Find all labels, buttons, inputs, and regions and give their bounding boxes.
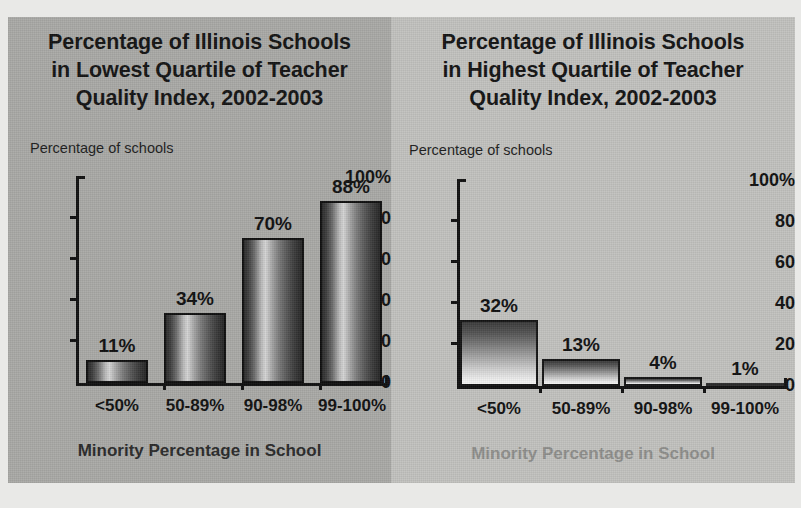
y-tick-20-right [451,342,458,345]
bar-lowest-99-100 [320,201,382,383]
bar-highest-50-89 [542,359,620,386]
chart-panel-lowest-quartile: Percentage of Illinois Schools in Lowest… [8,17,391,483]
y-tick-40-left [70,298,77,301]
y-tick-60-left [70,257,77,260]
chart-panel-highest-quartile: Percentage of Illinois Schools in Highes… [391,17,795,483]
bar-lowest-90-98 [242,238,304,383]
bar-value-lowest-99-100: 88% [320,176,382,198]
y-tick-label-100-right: 100% [735,170,795,191]
y-tick-80-left [70,216,77,219]
y-tick-label-60-right: 60 [735,252,795,273]
bar-lowest-50-89 [164,313,226,383]
y-tick-60-right [451,260,458,263]
x-cat-label-lowest-50-89: 50-89% [158,396,232,416]
y-tick-label-80-right: 80 [735,211,795,232]
bar-value-lowest-lt50: 11% [86,335,148,357]
chart-figure: Percentage of Illinois Schools in Lowest… [0,0,801,508]
bar-highest-90-98 [624,377,702,386]
bar-value-highest-90-98: 4% [624,352,702,374]
x-cat-label-highest-99-100: 99-100% [704,399,786,419]
plot-area-left: 100% 80 60 40 20 0 [8,17,391,483]
y-tick-label-20-right: 20 [735,334,795,355]
x-cat-label-lowest-lt50: <50% [80,396,154,416]
bar-highest-99-100 [706,383,784,386]
y-tick-20-left [70,339,77,342]
x-axis-line-left [76,383,388,386]
y-tick-40-right [451,301,458,304]
x-axis-end-cap-left [385,375,388,386]
bar-value-highest-lt50: 32% [460,295,538,317]
bar-value-lowest-50-89: 34% [164,288,226,310]
x-axis-caption-left: Minority Percentage in School [8,441,391,461]
bar-value-highest-99-100: 1% [706,358,784,380]
x-axis-end-cap-right [784,378,787,389]
bar-value-highest-50-89: 13% [542,334,620,356]
x-tick-3-left [319,383,322,390]
y-axis-top-cap-right [457,179,466,182]
bar-value-lowest-90-98: 70% [242,213,304,235]
x-cat-label-lowest-99-100: 99-100% [312,396,391,416]
x-axis-caption-right: Minority Percentage in School [391,444,795,464]
x-tick-2-right [621,386,624,393]
y-axis-top-cap-left [76,176,85,179]
x-cat-label-highest-50-89: 50-89% [544,399,618,419]
x-cat-label-highest-90-98: 90-98% [626,399,700,419]
x-tick-1-right [539,386,542,393]
y-axis-line-left [76,176,79,386]
x-tick-1-left [163,383,166,390]
bar-highest-lt50 [460,320,538,386]
y-tick-label-40-right: 40 [735,293,795,314]
x-cat-label-lowest-90-98: 90-98% [236,396,310,416]
bar-lowest-lt50 [86,360,148,383]
x-tick-2-left [241,383,244,390]
plot-area-right: 100% 80 60 40 20 0 32% 13% 4% [391,17,795,483]
y-tick-80-right [451,219,458,222]
x-cat-label-highest-lt50: <50% [462,399,536,419]
x-tick-3-right [703,386,706,393]
